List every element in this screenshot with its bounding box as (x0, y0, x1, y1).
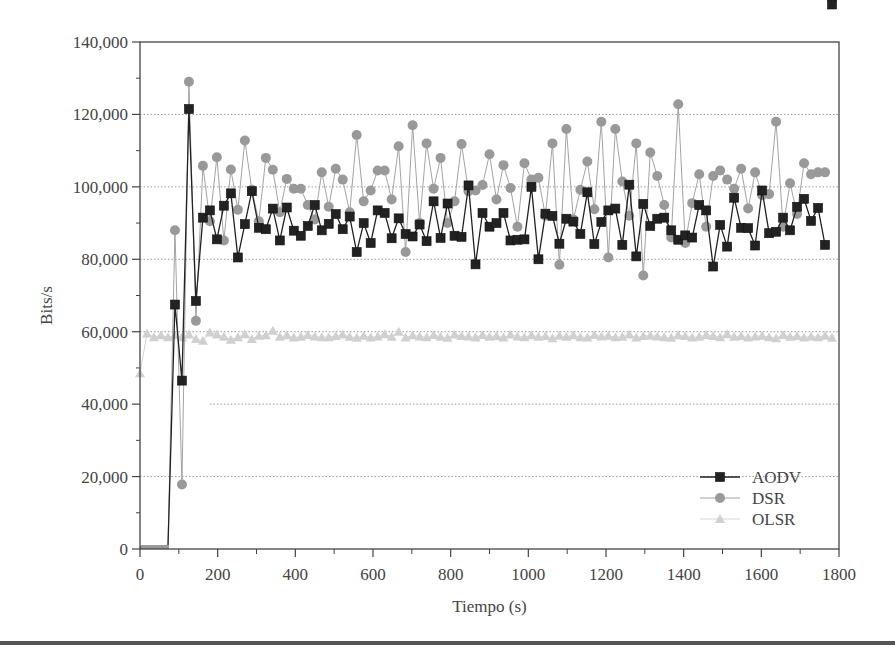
x-tick-label: 1600 (744, 565, 778, 584)
series-olsr (135, 326, 837, 378)
legend: AODVDSROLSR (700, 468, 802, 529)
x-tick-label: 200 (205, 565, 231, 584)
y-tick-label: 40,000 (81, 395, 128, 414)
plot-series (135, 0, 837, 549)
y-tick-label: 100,000 (73, 178, 128, 197)
y-axis: 020,00040,00060,00080,000100,000120,0001… (73, 33, 140, 559)
x-axis: 020040060080010001200140016001800 (136, 549, 856, 584)
y-tick-label: 140,000 (73, 33, 128, 52)
legend-label: OLSR (752, 510, 796, 529)
y-tick-label: 60,000 (81, 323, 128, 342)
plot-frame (140, 42, 839, 549)
series-dsr (140, 0, 837, 547)
y-tick-label: 20,000 (81, 468, 128, 487)
x-axis-title: Tiempo (s) (452, 597, 526, 616)
x-tick-label: 600 (360, 565, 386, 584)
y-tick-label: 80,000 (81, 250, 128, 269)
gridlines (140, 114, 839, 476)
y-tick-label: 120,000 (73, 105, 128, 124)
legend-label: AODV (752, 468, 802, 487)
x-tick-label: 1200 (589, 565, 623, 584)
x-tick-label: 0 (136, 565, 145, 584)
legend-label: DSR (752, 489, 786, 508)
legend-item-aodv: AODV (700, 468, 802, 487)
x-tick-label: 1400 (667, 565, 701, 584)
line-chart: 020,00040,00060,00080,000100,000120,0001… (0, 0, 895, 660)
x-tick-label: 1000 (511, 565, 545, 584)
y-axis-title: Bits/s (37, 286, 56, 325)
bottom-divider (0, 641, 895, 645)
legend-item-olsr: OLSR (700, 510, 796, 529)
x-tick-label: 800 (438, 565, 464, 584)
legend-item-dsr: DSR (700, 489, 786, 508)
series-aodv (140, 0, 837, 547)
y-tick-label: 0 (120, 540, 129, 559)
x-tick-label: 1800 (822, 565, 856, 584)
x-tick-label: 400 (283, 565, 309, 584)
